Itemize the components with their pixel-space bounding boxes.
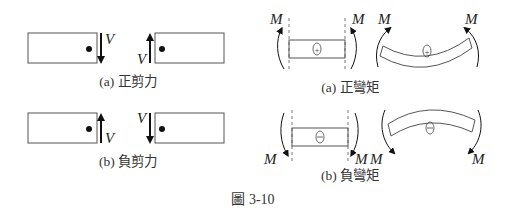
section-point-dot	[159, 126, 165, 132]
negative-shear-caption: (b) 負剪力	[99, 154, 157, 169]
moment-label-m: M	[471, 151, 486, 167]
moment-arrow-ccw-icon	[352, 113, 358, 154]
positive-shear-caption: (a) 正剪力	[99, 74, 156, 89]
negative-shear-group: V V (b) 負剪力	[28, 110, 224, 169]
positive-sign-symbol: +	[315, 46, 320, 55]
figure-caption: 圖 3-10	[231, 192, 274, 207]
positive-shear-group: V V (a) 正剪力	[28, 31, 224, 89]
shear-label-v: V	[105, 31, 116, 47]
moment-label-m: M	[377, 11, 392, 27]
moment-label-m: M	[351, 11, 366, 27]
moment-label-m: M	[269, 11, 284, 27]
shear-moment-sign-convention-diagram: V V (a) 正剪力 V V (b) 負剪力 + M M +	[0, 0, 507, 211]
section-point-dot	[159, 46, 165, 52]
moment-arrow-cw-icon	[351, 30, 356, 69]
bent-beam-concave-down	[388, 110, 475, 136]
shear-right-segment	[155, 33, 224, 63]
shear-right-segment	[155, 113, 224, 143]
moment-arrow-ccw-icon	[278, 30, 284, 69]
positive-moment-group: + M M + M M (a) 正彎矩	[269, 11, 479, 95]
moment-label-m: M	[354, 151, 369, 167]
moment-label-m: M	[464, 11, 479, 27]
moment-arrow-ccw-icon	[470, 110, 481, 152]
moment-arrow-cw-icon	[382, 110, 393, 152]
moment-label-m: M	[263, 151, 278, 167]
moment-label-m: M	[369, 151, 384, 167]
negative-moment-group: M M M M (b) 負彎矩	[263, 110, 486, 183]
negative-moment-caption: (b) 負彎矩	[321, 168, 379, 183]
shear-label-v: V	[105, 130, 116, 146]
section-point-dot	[86, 126, 92, 132]
positive-sign-symbol: +	[425, 48, 430, 57]
moment-arrow-cw-icon	[281, 113, 287, 154]
shear-label-v: V	[137, 51, 148, 67]
shear-label-v: V	[137, 110, 148, 126]
section-point-dot	[86, 46, 92, 52]
positive-moment-caption: (a) 正彎矩	[321, 80, 378, 95]
